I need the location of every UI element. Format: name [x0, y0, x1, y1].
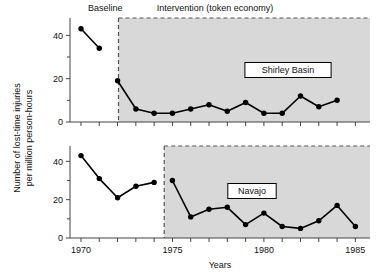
y-tick-label-bottom-0: 0 [58, 233, 63, 243]
x-tick-label-1980: 1980 [254, 245, 274, 255]
x-tick-label-1985: 1985 [345, 245, 365, 255]
phase-label-baseline: Baseline [88, 3, 123, 13]
data-point-top-1977[interactable] [206, 102, 211, 107]
data-point-bottom-1976[interactable] [188, 214, 193, 219]
y-tick-label-bottom-40: 40 [53, 157, 63, 167]
data-point-top-1973[interactable] [133, 106, 138, 111]
data-point-bottom-1973[interactable] [133, 184, 138, 189]
data-point-top-1971[interactable] [97, 46, 102, 51]
y-axis-title-line1: Number of lost-time injuries [12, 83, 22, 193]
y-axis-title-line2: per million person-hours [24, 89, 34, 186]
y-tick-label-top-0: 0 [58, 117, 63, 127]
data-point-top-1979[interactable] [243, 100, 248, 105]
chart-canvas: 02040020401970197519801985Shirley BasinN… [0, 0, 382, 275]
data-point-bottom-1971[interactable] [97, 176, 102, 181]
y-tick-label-top-40: 40 [53, 31, 63, 41]
data-line-bottom-baseline [81, 156, 154, 198]
data-point-top-1972[interactable] [115, 78, 120, 83]
data-point-bottom-1979[interactable] [243, 222, 248, 227]
data-point-top-1970[interactable] [78, 26, 83, 31]
data-point-bottom-1978[interactable] [225, 205, 230, 210]
chart-figure: 02040020401970197519801985Shirley BasinN… [0, 0, 382, 275]
series-label-shirley-basin: Shirley Basin [245, 63, 331, 78]
data-point-bottom-1970[interactable] [78, 153, 83, 158]
intervention-shade-top [118, 18, 370, 122]
data-point-top-1982[interactable] [298, 93, 303, 98]
data-point-top-1974[interactable] [151, 111, 156, 116]
chart-panel-bottom: 020401970197519801985 [53, 146, 370, 255]
data-point-top-1983[interactable] [316, 104, 321, 109]
x-tick-label-1970: 1970 [71, 245, 91, 255]
x-tick-label-1975: 1975 [162, 245, 182, 255]
data-point-top-1978[interactable] [225, 109, 230, 114]
data-point-bottom-1972[interactable] [115, 195, 120, 200]
data-point-bottom-1980[interactable] [261, 210, 266, 215]
data-point-bottom-1984[interactable] [334, 203, 339, 208]
series-label-navajo-label: Navajo [238, 186, 266, 196]
data-point-bottom-1985[interactable] [353, 224, 358, 229]
data-point-bottom-1977[interactable] [206, 207, 211, 212]
series-label-shirley-basin-label: Shirley Basin [262, 65, 315, 75]
phase-label-intervention: Intervention (token economy) [157, 3, 274, 13]
data-point-bottom-1981[interactable] [280, 224, 285, 229]
data-point-bottom-1975[interactable] [170, 178, 175, 183]
data-line-top-baseline [81, 29, 99, 49]
data-point-top-1976[interactable] [188, 106, 193, 111]
data-point-top-1984[interactable] [334, 98, 339, 103]
series-label-navajo: Navajo [228, 184, 276, 199]
data-point-top-1980[interactable] [261, 111, 266, 116]
y-tick-label-bottom-20: 20 [53, 195, 63, 205]
data-point-bottom-1974[interactable] [151, 180, 156, 185]
data-point-top-1975[interactable] [170, 111, 175, 116]
x-axis-title: Years [209, 260, 232, 270]
data-point-top-1981[interactable] [280, 111, 285, 116]
data-point-bottom-1982[interactable] [298, 226, 303, 231]
y-tick-label-top-20: 20 [53, 74, 63, 84]
data-point-bottom-1983[interactable] [316, 218, 321, 223]
